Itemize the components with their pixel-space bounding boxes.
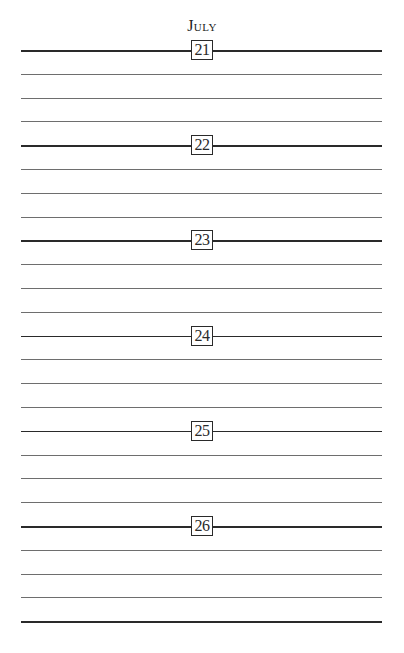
writing-line <box>21 383 382 384</box>
writing-line <box>21 98 382 99</box>
day-number-box: 25 <box>191 421 213 441</box>
day-number-box: 23 <box>191 230 213 250</box>
writing-line <box>21 574 382 575</box>
day-number-box: 22 <box>191 135 213 155</box>
writing-line <box>21 550 382 551</box>
writing-line <box>21 407 382 408</box>
closing-rule <box>21 621 382 623</box>
writing-line <box>21 478 382 479</box>
writing-line <box>21 502 382 503</box>
writing-line <box>21 455 382 456</box>
writing-line <box>21 312 382 313</box>
day-number-box: 24 <box>191 326 213 346</box>
writing-line <box>21 193 382 194</box>
writing-line <box>21 264 382 265</box>
writing-line <box>21 597 382 598</box>
day-number-box: 26 <box>191 516 213 536</box>
month-title: July <box>0 17 404 35</box>
writing-line <box>21 74 382 75</box>
writing-line <box>21 288 382 289</box>
writing-line <box>21 121 382 122</box>
day-number-box: 21 <box>191 40 213 60</box>
writing-line <box>21 169 382 170</box>
writing-line <box>21 359 382 360</box>
writing-line <box>21 217 382 218</box>
